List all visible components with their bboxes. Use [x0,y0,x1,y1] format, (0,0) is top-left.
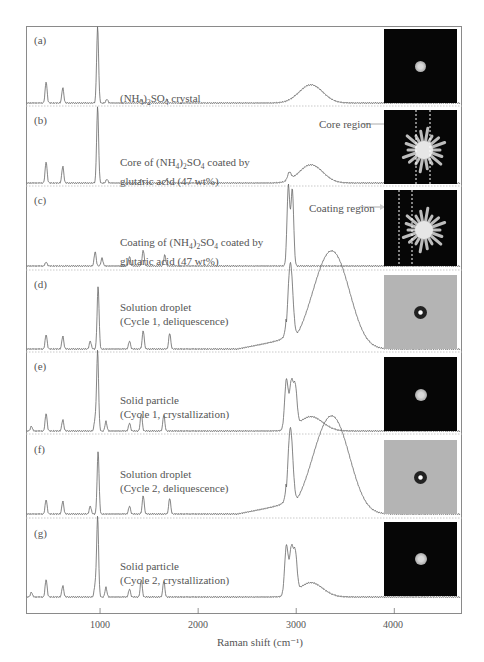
particle-image-e [384,357,457,431]
particle-image-c [384,190,457,266]
droplet-image-d [384,275,457,349]
starburst-particle-icon [384,190,457,266]
x-axis-label: Raman shift (cm⁻¹) [200,636,320,649]
x-tick-label-2000: 2000 [188,619,208,630]
panel-label-g: Solid particle(Cycle 2, crystallization) [120,559,229,587]
panel-letter-d: (d) [34,278,47,290]
panel-letter-e: (e) [34,360,46,372]
raman-spectra-figure: (a) (b) (c) (d) (e) (f) (g) (NH4)2SO4 cr… [0,0,484,662]
x-tick-label-1000: 1000 [90,619,110,630]
particle-image-g [384,522,457,596]
x-tick-label-4000: 4000 [383,619,403,630]
starburst-particle-icon [384,110,457,184]
panel-label-c: Coating of (NH4)2SO4 coated byglutaric a… [120,235,263,268]
panel-letter-f: (f) [34,443,45,455]
panel-label-a: (NH4)2SO4 crystal [120,91,201,110]
droplet-image-f [384,440,457,514]
particle-image-b [384,110,457,184]
panel-label-f: Solution droplet(Cycle 2, deliquescence) [120,467,228,495]
panel-label-e: Solid particle(Cycle 1, crystallization) [120,393,229,421]
panel-label-d: Solution droplet(Cycle 1, deliquescence) [120,300,228,328]
x-tick-label-3000: 3000 [286,619,306,630]
panel-letter-b: (b) [34,114,47,126]
particle-image-a [384,29,457,103]
panel-letter-c: (c) [34,194,46,206]
panel-letter-g: (g) [34,527,47,539]
core-region-label: Core region [319,118,371,130]
panel-letter-a: (a) [34,34,46,46]
panel-label-b: Core of (NH4)2SO4 coated byglutaric acid… [120,155,250,188]
coating-region-label: Coating region [309,202,375,214]
